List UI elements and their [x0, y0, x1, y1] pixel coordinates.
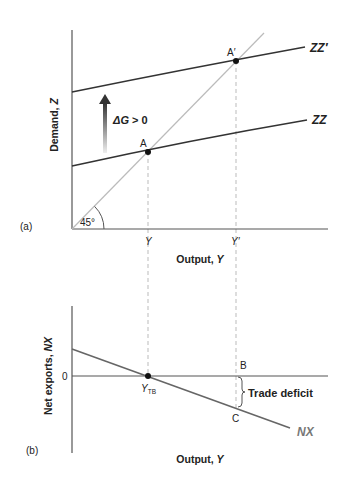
- shift-rest: > 0: [129, 114, 148, 126]
- angle-label: 45°: [80, 217, 95, 228]
- point-a-label: A: [140, 138, 147, 149]
- y-axis-label-a: Demand, Z: [48, 98, 60, 152]
- point-a-prime-label: A′: [227, 47, 236, 58]
- zero-label: 0: [62, 371, 68, 382]
- nx-curve-label: NX: [297, 425, 315, 439]
- zz-prime-curve: [72, 47, 305, 92]
- trade-deficit-label: Trade deficit: [248, 387, 313, 399]
- y-axis-label-a-var: Z: [48, 98, 60, 106]
- y-axis-label-b-main: Net exports,: [42, 351, 54, 415]
- zz-prime-label: ZZ′: [309, 41, 329, 55]
- y-axis-label-b-var: NX: [42, 336, 54, 352]
- ytb-sub: TB: [148, 388, 156, 395]
- y-axis-label-a-main: Demand,: [48, 105, 60, 152]
- point-c-label: C: [232, 413, 239, 424]
- x-axis-label-b: Output, Y: [176, 453, 224, 465]
- shift-arrow-shaft: [103, 103, 107, 153]
- x-axis-label-a-main: Output,: [176, 253, 216, 265]
- panel-a-label: (a): [20, 221, 32, 232]
- zz-curve: [72, 120, 307, 166]
- point-b-label: B: [240, 360, 247, 371]
- tick-y: Y: [145, 236, 153, 247]
- point-a: [145, 149, 151, 155]
- trade-deficit-brace: [238, 377, 245, 407]
- x-axis-label-a: Output, Y: [176, 253, 224, 265]
- tick-y-prime: Y′: [231, 236, 241, 247]
- ytb-label: YTB: [141, 383, 156, 395]
- y-axis-label-b: Net exports, NX: [42, 336, 54, 415]
- x-axis-label-a-var: Y: [217, 253, 225, 265]
- point-ytb: [145, 373, 151, 379]
- panel-b-label: (b): [26, 445, 38, 456]
- x-axis-label-b-var: Y: [217, 453, 225, 465]
- shift-label: ΔG > 0: [112, 114, 148, 126]
- shift-arrow-head-icon: [99, 94, 111, 104]
- panel-b: 0 NX YTB B C Trade deficit Output, Y Net…: [26, 306, 328, 465]
- delta-g: ΔG: [112, 114, 129, 126]
- point-a-prime: [233, 58, 239, 64]
- panel-a: 45° ZZ ZZ′ ΔG > 0 A A′ Y Y′ Output, Y De…: [20, 30, 329, 408]
- zz-label: ZZ: [311, 113, 327, 127]
- diagram-canvas: 45° ZZ ZZ′ ΔG > 0 A A′ Y Y′ Output, Y De…: [0, 0, 348, 485]
- angle-arc: [95, 206, 104, 229]
- x-axis-label-b-main: Output,: [176, 453, 216, 465]
